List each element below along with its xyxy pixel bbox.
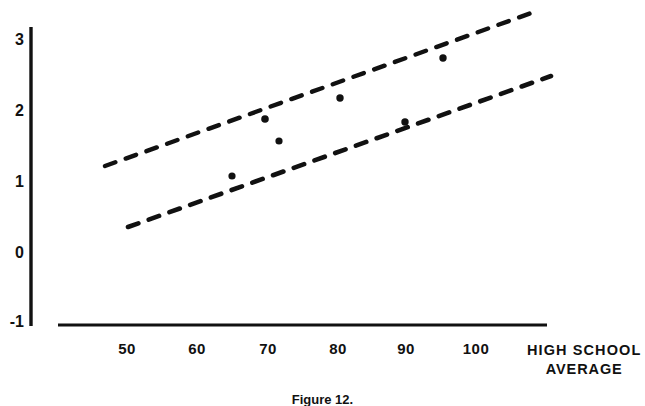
data-point [261,115,269,123]
x-tick-label-50: 50 [118,340,136,357]
y-tick-label-1: 1 [6,173,24,191]
data-point [439,54,446,61]
figure-container: 3 2 1 0 -1 50 60 70 80 90 100 HIGH SCHOO… [0,0,645,406]
y-tick-label-0: 0 [6,244,24,262]
x-axis-title: HIGH SCHOOL AVERAGE [527,341,641,379]
upper-band-line [105,12,534,166]
data-point [336,94,343,101]
data-point-group [228,54,446,179]
data-point [401,118,408,125]
x-axis-title-line-1: HIGH SCHOOL [527,342,641,358]
x-axis-title-line-2: AVERAGE [527,360,641,379]
data-point [228,172,235,179]
x-tick-label-90: 90 [397,340,415,357]
y-tick-label-minus1: -1 [2,313,24,331]
data-point [275,137,282,144]
y-tick-label-2: 2 [6,102,24,120]
y-tick-label-3: 3 [6,31,24,49]
x-tick-label-80: 80 [329,340,347,357]
x-tick-label-60: 60 [188,340,206,357]
x-tick-label-100: 100 [463,340,490,357]
x-tick-label-70: 70 [259,340,277,357]
figure-caption: Figure 12. [0,392,645,406]
